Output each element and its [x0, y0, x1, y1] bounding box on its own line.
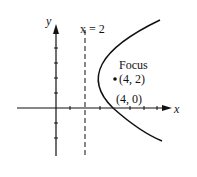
y-axis-arrow-icon	[53, 24, 59, 34]
vertex-label: (4, 0)	[116, 92, 142, 106]
y-axis-label: y	[45, 14, 52, 28]
x-axis-arrow-icon	[162, 105, 172, 111]
focus-coords-label: (4, 2)	[119, 72, 145, 86]
directrix-label: x = 2	[80, 22, 105, 36]
parabola-diagram: y x x = 2 Focus (4, 2) (4, 0)	[0, 0, 197, 177]
focus-point	[113, 77, 117, 81]
x-axis-label: x	[173, 102, 180, 116]
focus-label: Focus	[119, 58, 148, 72]
